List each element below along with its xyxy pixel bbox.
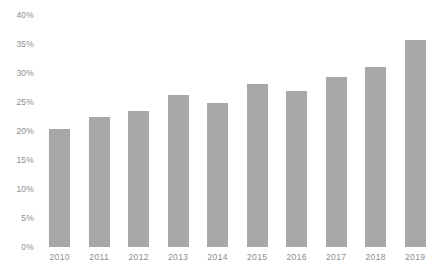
x-axis-tick-label: 2013 xyxy=(159,252,199,266)
x-axis-tick-label: 2015 xyxy=(238,252,278,266)
bar-slot xyxy=(396,15,435,247)
bar-slot xyxy=(198,15,238,247)
y-axis-tick-label: 10% xyxy=(0,184,34,194)
bar-slot xyxy=(40,15,80,247)
y-axis-tick-label: 30% xyxy=(0,68,34,78)
y-axis-tick-label: 40% xyxy=(0,10,34,20)
y-axis-tick-label: 35% xyxy=(0,39,34,49)
x-axis: 2010201120122013201420152016201720182019 xyxy=(40,252,435,266)
bar-chart: 0%5%10%15%20%25%30%35%40% 20102011201220… xyxy=(0,0,435,274)
x-axis-tick-label: 2019 xyxy=(396,252,435,266)
x-axis-tick-label: 2017 xyxy=(317,252,357,266)
plot-area xyxy=(40,15,435,247)
bar[interactable] xyxy=(247,84,268,247)
bar-slot xyxy=(238,15,278,247)
bar-slot xyxy=(80,15,120,247)
x-axis-tick-label: 2014 xyxy=(198,252,238,266)
bar[interactable] xyxy=(286,91,307,247)
bar[interactable] xyxy=(89,117,110,247)
x-axis-tick-label: 2016 xyxy=(277,252,317,266)
bar[interactable] xyxy=(326,77,347,247)
bar-slot xyxy=(119,15,159,247)
bar[interactable] xyxy=(168,95,189,247)
y-axis-tick-label: 20% xyxy=(0,126,34,136)
bar-slot xyxy=(317,15,357,247)
bar-slot xyxy=(277,15,317,247)
x-axis-tick-label: 2012 xyxy=(119,252,159,266)
y-axis-tick-label: 25% xyxy=(0,97,34,107)
bar-series xyxy=(40,15,435,247)
y-axis-tick-label: 15% xyxy=(0,155,34,165)
y-axis-tick-label: 0% xyxy=(0,242,34,252)
bar-slot xyxy=(356,15,396,247)
x-axis-tick-label: 2018 xyxy=(356,252,396,266)
bar-slot xyxy=(159,15,199,247)
bar[interactable] xyxy=(365,67,386,247)
x-axis-tick-label: 2011 xyxy=(80,252,120,266)
bar[interactable] xyxy=(49,129,70,247)
bar[interactable] xyxy=(405,40,426,247)
y-axis: 0%5%10%15%20%25%30%35%40% xyxy=(0,15,34,247)
bar[interactable] xyxy=(207,103,228,247)
y-axis-tick-label: 5% xyxy=(0,213,34,223)
x-axis-tick-label: 2010 xyxy=(40,252,80,266)
bar[interactable] xyxy=(128,111,149,247)
